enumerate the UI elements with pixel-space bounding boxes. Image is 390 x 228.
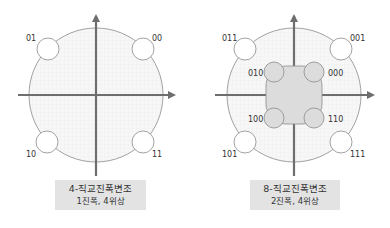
label-01: 01 bbox=[26, 34, 36, 43]
point-00 bbox=[132, 38, 154, 60]
label-111: 111 bbox=[350, 150, 365, 159]
caption-title: 4-직교진폭변조 bbox=[55, 183, 146, 195]
diagram-8qam: 011 001 101 111 010 000 100 110 bbox=[215, 16, 373, 176]
label-100: 100 bbox=[248, 115, 263, 124]
point-101 bbox=[234, 131, 256, 153]
caption-title: 8-직교진폭변조 bbox=[250, 183, 340, 195]
label-11: 11 bbox=[152, 150, 162, 159]
label-10: 10 bbox=[26, 150, 36, 159]
point-100 bbox=[264, 108, 284, 128]
point-11 bbox=[132, 131, 154, 153]
point-010 bbox=[264, 62, 284, 82]
caption-subtitle: 2진폭, 4위상 bbox=[250, 195, 340, 207]
diagram-4qam: 01 00 10 11 bbox=[18, 16, 174, 176]
point-01 bbox=[37, 38, 59, 60]
label-110: 110 bbox=[328, 115, 343, 124]
point-110 bbox=[304, 108, 324, 128]
label-011: 011 bbox=[222, 34, 237, 43]
label-010: 010 bbox=[248, 69, 263, 78]
caption-subtitle: 1진폭, 4위상 bbox=[55, 195, 146, 207]
label-101: 101 bbox=[222, 150, 237, 159]
label-000: 000 bbox=[328, 69, 343, 78]
point-000 bbox=[304, 62, 324, 82]
point-10 bbox=[36, 131, 58, 153]
point-111 bbox=[330, 131, 352, 153]
point-001 bbox=[330, 38, 352, 60]
caption-8qam: 8-직교진폭변조 2진폭, 4위상 bbox=[250, 180, 340, 210]
label-00: 00 bbox=[152, 34, 162, 43]
caption-4qam: 4-직교진폭변조 1진폭, 4위상 bbox=[55, 180, 146, 210]
label-001: 001 bbox=[350, 34, 365, 43]
point-011 bbox=[234, 38, 256, 60]
